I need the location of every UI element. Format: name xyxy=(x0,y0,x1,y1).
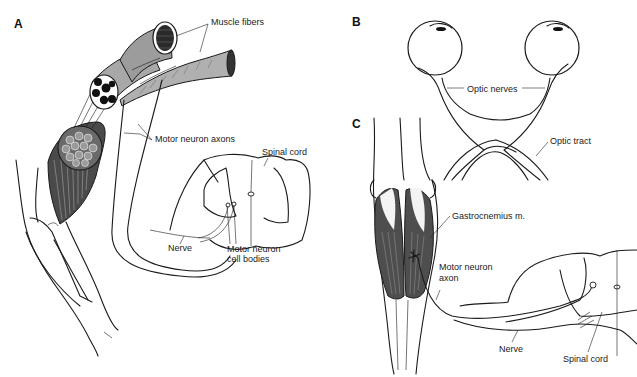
panel-b-label: B xyxy=(352,15,361,29)
label-motor-neuron-axon-line1: Motor neuron xyxy=(439,262,493,272)
panel-c-label: C xyxy=(352,117,361,131)
left-eye xyxy=(408,21,462,75)
label-motor-neuron-axon-line2: axon xyxy=(439,273,459,283)
label-optic-tract: Optic tract xyxy=(550,136,592,146)
label-nerve-c: Nerve xyxy=(499,344,523,354)
label-nerve-a: Nerve xyxy=(168,243,192,253)
muscle-fibers xyxy=(120,22,235,106)
label-spinal-cord-c: Spinal cord xyxy=(563,354,608,364)
spinal-cord-a xyxy=(150,154,310,249)
label-optic-nerves: Optic nerves xyxy=(467,84,518,94)
panel-a-label: A xyxy=(14,17,23,31)
label-motor-neuron-cell-bodies-line2: cell bodies xyxy=(227,254,270,264)
panel-c: C xyxy=(352,117,637,374)
label-spinal-cord-a: Spinal cord xyxy=(262,147,307,157)
label-motor-neuron-axons: Motor neuron axons xyxy=(155,134,236,144)
biceps-muscle xyxy=(48,90,110,224)
label-gastrocnemius: Gastrocnemius m. xyxy=(452,211,525,221)
panel-a: A xyxy=(14,17,310,356)
label-motor-neuron-cell-bodies-line1: Motor neuron xyxy=(227,244,281,254)
anatomy-figure: A xyxy=(0,0,637,377)
label-muscle-fibers: Muscle fibers xyxy=(211,17,265,27)
panel-b: B Optic nerves Optic tract xyxy=(352,15,592,180)
right-eye xyxy=(525,21,579,75)
optic-nerves-chiasm xyxy=(418,64,568,180)
